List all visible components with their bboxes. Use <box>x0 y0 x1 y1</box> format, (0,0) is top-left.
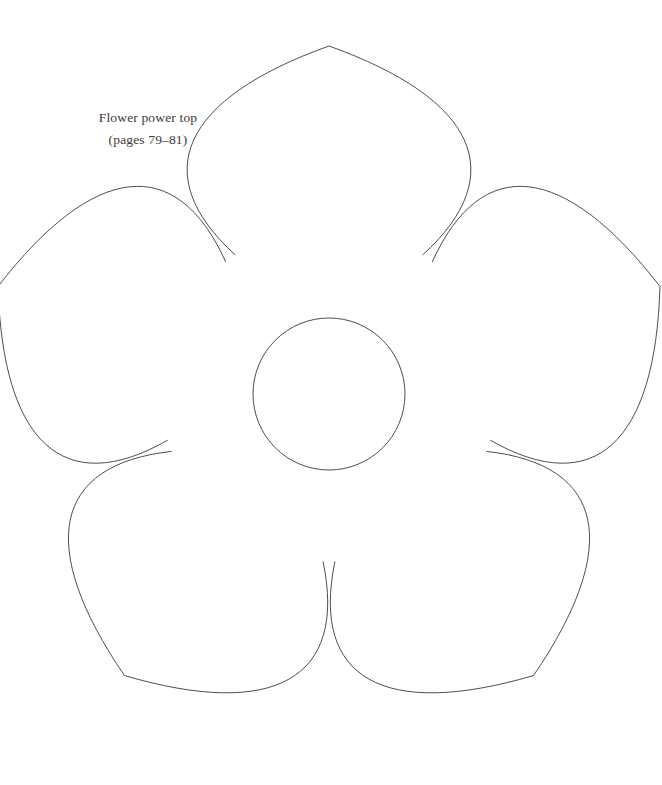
page-canvas: Flower power top (pages 79–81) <box>0 0 662 785</box>
flower-petal-5 <box>0 186 226 463</box>
flower-center-circle <box>253 318 405 470</box>
flower-petal-2 <box>432 186 660 463</box>
caption: Flower power top (pages 79–81) <box>48 107 248 151</box>
flower-petal-4 <box>68 451 327 692</box>
caption-title: Flower power top <box>48 107 248 129</box>
flower-petal-3 <box>330 451 589 692</box>
caption-pages: (pages 79–81) <box>48 129 248 151</box>
